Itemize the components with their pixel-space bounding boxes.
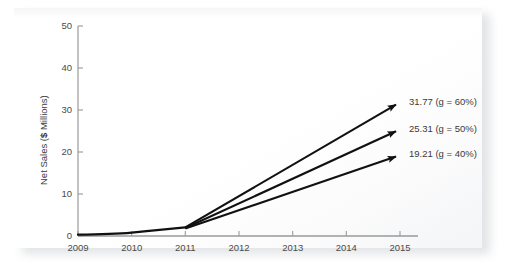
y-axis-title: Net Sales ($ Millions) [38,95,49,185]
figure-root: 0 10 20 30 40 50 Net Sales ($ Millions) … [0,0,516,271]
y-tick-label-10: 10 [61,188,72,199]
projection-arrow-60 [185,105,396,228]
x-tick-label-2010: 2010 [121,242,142,253]
y-tick-label-40: 40 [61,62,72,73]
y-axis-title-part1: Net Sales ( [38,137,49,185]
x-tick-label-2014: 2014 [336,242,357,253]
projection-arrow-50 [185,131,396,228]
x-tick-label-2015: 2015 [389,242,410,253]
y-tick-label-30: 30 [61,104,72,115]
annotation-50-percent: 25.31 (g = 50%) [409,123,477,134]
y-tick-label-50: 50 [61,20,72,31]
x-tick-label-2011: 2011 [175,242,195,253]
y-tick-label-0: 0 [67,230,72,241]
chart-canvas: 0 10 20 30 40 50 Net Sales ($ Millions) … [0,0,516,271]
annotation-60-percent: 31.77 (g = 60%) [409,96,477,107]
y-tick-label-20: 20 [61,146,72,157]
projection-arrow-40 [185,157,396,229]
x-tick-label-2013: 2013 [282,242,303,253]
y-axis: 0 10 20 30 40 50 Net Sales ($ Millions) [38,20,83,241]
annotation-40-percent: 19.21 (g = 40%) [409,148,477,159]
x-tick-label-2009: 2009 [67,242,88,253]
x-tick-label-2012: 2012 [228,242,249,253]
y-axis-title-part3: Millions) [38,95,49,132]
